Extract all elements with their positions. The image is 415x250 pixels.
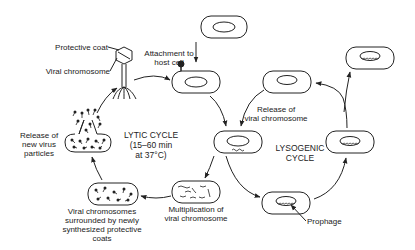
label-viral-chromosomes-surrounded: Viral chromosomes surrounded by newly sy… (56, 207, 148, 243)
host-cell-center (214, 131, 262, 153)
lysogenic-cell-top-right (346, 47, 394, 69)
label-prophage: Prophage (307, 217, 357, 226)
prophage-cell (262, 192, 310, 214)
bursting-cell (65, 120, 111, 152)
label-release-viral-line1: Release of (238, 105, 314, 114)
host-cell-top (201, 16, 247, 38)
arrow-right-to-top-right (344, 72, 350, 112)
label-multiplication: Multiplication of viral chromosome (158, 205, 234, 223)
assembling-particles (95, 187, 133, 202)
label-surrounded-line3: synthesized protective (56, 225, 148, 234)
arrow-center-to-multiplication (205, 156, 214, 178)
arrow-center-to-prophage (226, 156, 260, 197)
assembling-tails (96, 188, 131, 201)
label-release-new-line2: new virus (14, 140, 64, 149)
arrow-prophage-to-right (314, 158, 346, 199)
label-release-new-line3: particles (14, 149, 64, 158)
lytic-title: LYTIC CYCLE (118, 130, 184, 140)
label-release-viral-line2: viral chromosome (238, 114, 314, 123)
leader-viral-chromosome (110, 58, 117, 71)
arrow-phage-to-cell (134, 76, 170, 80)
label-attachment: Attachment to host cell (136, 49, 202, 67)
lysogenic-cell-right (326, 131, 374, 153)
label-release-new-line1: Release of (14, 131, 64, 140)
label-viral-chromosome: Viral chromosome (26, 67, 110, 76)
lysogenic-cell-upper-left (263, 71, 311, 93)
label-surrounded-line1: Viral chromosomes (56, 207, 148, 216)
label-lysogenic-cycle: LYSOGENIC CYCLE (272, 143, 328, 163)
label-release-viral-chromosome: Release of viral chromosome (238, 105, 314, 123)
virus-particles (71, 109, 106, 150)
virus-tails (72, 110, 104, 148)
lysogenic-title-line1: LYSOGENIC (272, 143, 328, 153)
arrow-multiplication-to-assembly (141, 196, 171, 198)
label-multiplication-line2: viral chromosome (158, 214, 234, 223)
arrow-release-to-phage (97, 88, 117, 113)
lytic-temperature: at 37°C) (118, 150, 184, 160)
arrow-assembly-to-burst (92, 157, 102, 180)
leader-protective-coat (108, 47, 119, 50)
lytic-duration: (15–60 min (118, 140, 184, 150)
bacteriophage (113, 47, 136, 99)
lysogenic-title-line2: CYCLE (272, 153, 328, 163)
multiplication-cell (172, 181, 220, 203)
arrow-right-to-upper-left (316, 83, 347, 128)
label-lytic-cycle: LYTIC CYCLE (15–60 min at 37°C) (118, 130, 184, 160)
label-protective-coat: Protective coat (28, 43, 108, 52)
label-attachment-line2: host cell (136, 58, 202, 67)
label-surrounded-line2: surrounded by newly (56, 216, 148, 225)
label-release-new-virus: Release of new virus particles (14, 131, 64, 158)
arrow-attach-to-center (210, 96, 226, 126)
label-attachment-line1: Attachment to (136, 49, 202, 58)
label-surrounded-line4: coats (56, 234, 148, 243)
label-multiplication-line1: Multiplication of (158, 205, 234, 214)
